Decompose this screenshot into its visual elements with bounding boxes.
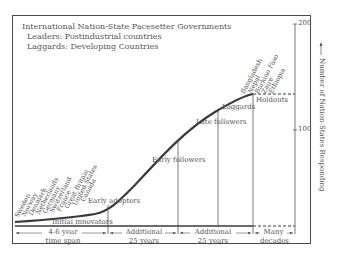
y-axis-label: Number of Nation-States Responding (318, 58, 326, 191)
time-span-4: Many decades (260, 228, 287, 246)
stage-laggards: Laggards (222, 103, 255, 111)
stage-holdouts: Holdouts (256, 96, 288, 104)
stage-early-adopters: Early adopters (88, 197, 140, 205)
stage-late-followers: Late followers (196, 118, 247, 126)
stage-initial-innovators: Initial innovators (52, 218, 113, 226)
stage-early-followers: Early followers (152, 156, 206, 164)
time-span-1: 4-6 year time span (45, 228, 81, 246)
time-span-2: Additional 25 years (123, 228, 165, 246)
y-tick-100: 100 (298, 125, 311, 133)
s-curve-diagram (0, 0, 337, 261)
time-span-3: Additional 25 years (191, 228, 235, 246)
y-tick-200: 200 (298, 19, 311, 27)
